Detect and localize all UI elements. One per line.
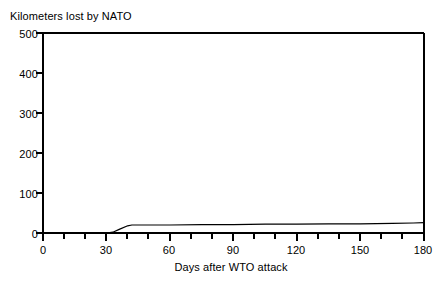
data-series-kilometers-lost: [43, 223, 424, 233]
axis-frame: [43, 33, 424, 233]
chart-figure: Kilometers lost by NATO 500 400 300 200 …: [0, 0, 442, 285]
plot-area: [0, 0, 442, 285]
y-axis-ticks: [36, 33, 43, 233]
